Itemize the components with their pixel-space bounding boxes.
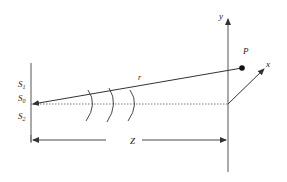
wavefront-arc-3	[128, 90, 135, 121]
point-p-label: P	[242, 46, 249, 56]
double-slit-diagram: S1 S0 S2 y x r P Z	[0, 0, 287, 182]
r-label: r	[138, 73, 142, 82]
x-axis	[228, 69, 264, 104]
x-axis-label: x	[265, 59, 270, 69]
wavefront-arc-2	[107, 88, 114, 122]
slit-label-s0: S0	[18, 93, 26, 104]
slit-label-s2: S2	[18, 111, 26, 122]
slit-label-s1: S1	[18, 79, 26, 90]
z-distance-label: Z	[130, 136, 136, 146]
y-axis-label: y	[218, 11, 223, 21]
point-p	[239, 65, 245, 71]
